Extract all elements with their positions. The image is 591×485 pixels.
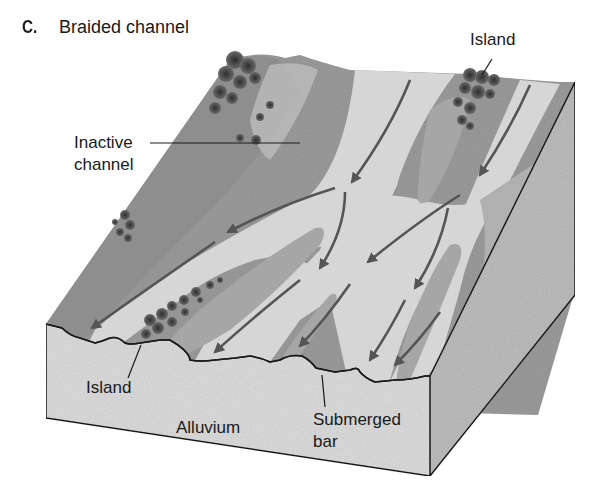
figure-title: Braided channel [59,17,189,37]
label-inactive-channel-line1: Inactive [74,133,133,153]
label-inactive-channel-line2: channel [74,155,134,175]
label-submerged-bar-line2: bar [313,432,338,452]
braided-channel-block-diagram [0,0,591,485]
panel-letter: C. [22,17,37,38]
label-alluvium: Alluvium [176,418,240,438]
label-submerged-bar-line1: Submerged [313,410,401,430]
label-island-top: Island [470,30,515,50]
label-island-bottom: Island [86,378,131,398]
